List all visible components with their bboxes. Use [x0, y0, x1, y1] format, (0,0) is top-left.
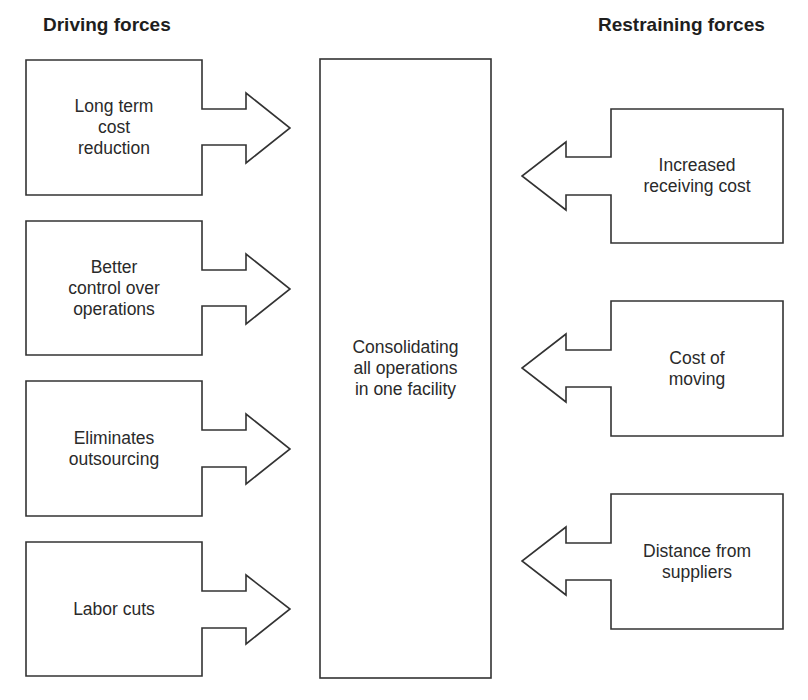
driving-force-label: Better control over operations	[26, 221, 202, 355]
center-change-label: Consolidating all operations in one faci…	[320, 59, 491, 678]
driving-force-label: Labor cuts	[26, 542, 202, 676]
driving-force-label: Eliminates outsourcing	[26, 381, 202, 516]
restraining-force-label: Cost of moving	[611, 301, 783, 436]
driving-force-label: Long term cost reduction	[26, 60, 202, 195]
restraining-force-label: Increased receiving cost	[611, 109, 783, 243]
restraining-force-label: Distance from suppliers	[611, 494, 783, 629]
